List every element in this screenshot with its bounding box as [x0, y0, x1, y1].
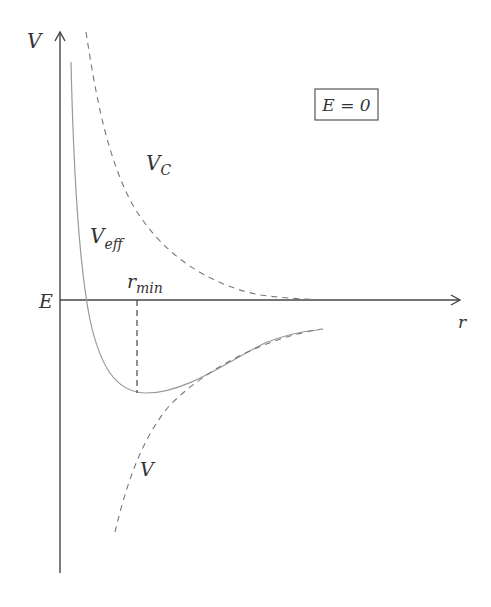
vc-curve: [86, 32, 340, 300]
rmin-label: rmin: [127, 270, 163, 296]
y-axis-label: V: [27, 29, 44, 53]
x-axis-label: r: [458, 312, 467, 332]
energy-level-label: E: [38, 290, 53, 312]
energy-box-label: E = 0: [321, 95, 370, 115]
potential-diagram: V E r VC Veff rmin V E = 0: [0, 0, 491, 607]
vc-label: VC: [146, 151, 171, 178]
veff-label: Veff: [90, 224, 125, 252]
energy-box: E = 0: [315, 89, 378, 120]
veff-curve: [71, 62, 318, 393]
v-curve: [115, 329, 323, 532]
v-label: V: [140, 458, 156, 480]
